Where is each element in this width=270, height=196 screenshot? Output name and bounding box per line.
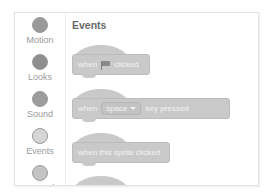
when-flag-clicked-block[interactable]: when clicked: [72, 45, 152, 79]
block-text: clicked: [114, 60, 138, 69]
sound-color-dot-icon: [32, 91, 48, 107]
category-motion[interactable]: Motion: [15, 17, 65, 45]
category-sound[interactable]: Sound: [15, 91, 65, 119]
block-text: when: [78, 60, 97, 69]
caret-down-icon: [130, 107, 136, 110]
block-text: when: [78, 104, 97, 113]
category-label: Sound: [15, 109, 65, 119]
block-text: when this sprite clicked: [78, 148, 160, 157]
category-control[interactable]: Control: [15, 165, 65, 186]
block-palette-panel: Motion Looks Sound Events Control Events…: [14, 12, 259, 186]
events-color-dot-icon: [32, 128, 48, 144]
when-sprite-clicked-block[interactable]: when this sprite clicked: [72, 133, 172, 167]
category-looks[interactable]: Looks: [15, 54, 65, 82]
control-color-dot-icon: [32, 165, 48, 181]
category-label: Events: [15, 146, 65, 156]
block-text: key pressed: [145, 104, 188, 113]
green-flag-icon: [101, 61, 110, 69]
motion-color-dot-icon: [32, 17, 48, 33]
partial-next-block[interactable]: [72, 176, 152, 186]
category-label: Motion: [15, 35, 65, 45]
key-dropdown[interactable]: space: [101, 102, 141, 115]
category-label: Looks: [15, 72, 65, 82]
category-label: Control: [15, 183, 65, 186]
looks-color-dot-icon: [32, 54, 48, 70]
dropdown-value: space: [106, 104, 127, 113]
when-key-pressed-block[interactable]: when space key pressed: [72, 89, 232, 123]
category-events[interactable]: Events: [15, 128, 65, 156]
category-sidebar: Motion Looks Sound Events Control: [15, 13, 66, 185]
section-title: Events: [72, 19, 106, 31]
